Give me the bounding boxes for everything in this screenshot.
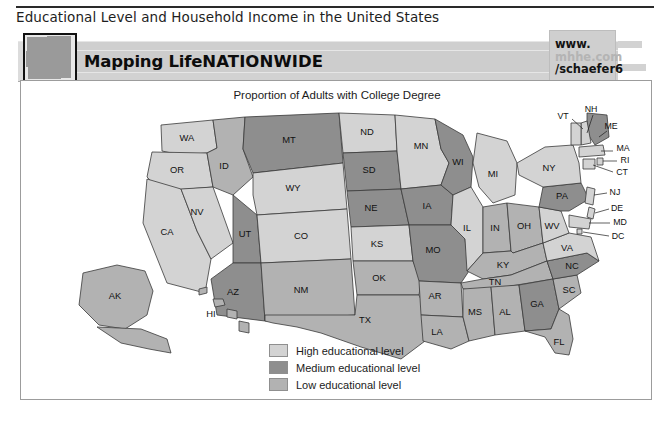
state-label-AZ: AZ	[227, 286, 239, 297]
banner-title-part1: Mapping Life	[84, 52, 202, 71]
state-label-WI: WI	[452, 156, 463, 167]
state-label-OK: OK	[372, 272, 386, 283]
map-content-frame: Proportion of Adults with College Degree	[20, 80, 652, 400]
state-label-MS: MS	[468, 306, 482, 317]
state-shape-HI-c[interactable]	[227, 309, 237, 319]
state-label-CT: CT	[616, 167, 628, 177]
state-label-VA: VA	[561, 242, 574, 253]
legend-item-high: High educational level	[269, 343, 569, 358]
state-label-MT: MT	[282, 134, 296, 145]
state-label-HI: HI	[206, 308, 215, 319]
legend-label-medium: Medium educational level	[296, 362, 420, 374]
state-label-MD: MD	[613, 217, 627, 227]
leader-line-NJ	[594, 193, 607, 195]
state-label-NC: NC	[565, 260, 579, 271]
state-label-RI: RI	[621, 155, 630, 165]
state-shape-VT[interactable]	[571, 123, 581, 145]
badge-band-left	[618, 41, 642, 48]
state-label-WA: WA	[180, 132, 196, 143]
state-label-IA: IA	[423, 200, 433, 211]
state-label-NM: NM	[294, 284, 309, 295]
state-label-NY: NY	[542, 162, 556, 173]
state-label-OH: OH	[517, 220, 531, 231]
state-shape-NE[interactable]	[347, 189, 409, 227]
state-label-MO: MO	[425, 244, 440, 255]
map-svg: WA OR CA NV ID MT WY UT CO AZ NM ND SD N…	[21, 103, 653, 363]
state-shape-OK[interactable]	[353, 261, 421, 295]
state-label-ND: ND	[360, 126, 374, 137]
state-label-TN: TN	[489, 276, 502, 287]
state-label-GA: GA	[530, 298, 544, 309]
state-label-DE: DE	[611, 203, 623, 213]
legend-item-low: Low educational level	[269, 377, 569, 392]
thumb-shape-f	[28, 67, 46, 79]
state-label-MN: MN	[414, 140, 429, 151]
banner-title-part2: NATIONWIDE	[202, 52, 323, 71]
state-label-DC: DC	[612, 231, 625, 241]
state-label-MI: MI	[488, 168, 498, 179]
state-label-NE: NE	[364, 202, 377, 213]
legend-swatch-low	[269, 378, 288, 391]
state-shape-NJ[interactable]	[585, 187, 595, 205]
state-label-IL: IL	[463, 222, 471, 233]
web-url-badge[interactable]: www. mhhe.com /schaefer6	[549, 30, 616, 82]
state-label-AL: AL	[499, 306, 510, 317]
state-label-NH: NH	[585, 104, 598, 114]
thumb-shape-c	[26, 51, 42, 67]
top-divider-rule	[16, 6, 654, 8]
state-shape-AK-tail[interactable]	[97, 327, 171, 353]
state-label-KS: KS	[371, 238, 384, 249]
state-label-CA: CA	[160, 226, 174, 237]
state-label-IN: IN	[490, 222, 499, 233]
legend-item-medium: Medium educational level	[269, 360, 569, 375]
state-label-TX: TX	[359, 314, 372, 325]
state-shape-CT[interactable]	[583, 159, 595, 169]
us-choropleth-map: WA OR CA NV ID MT WY UT CO AZ NM ND SD N…	[21, 103, 653, 363]
state-label-SD: SD	[362, 164, 375, 175]
state-shape-HI-d[interactable]	[239, 321, 249, 333]
state-label-AK: AK	[109, 290, 122, 301]
state-label-SC: SC	[562, 284, 575, 295]
state-label-KY: KY	[497, 259, 510, 270]
state-label-VT: VT	[557, 111, 569, 121]
state-label-ME: ME	[604, 121, 617, 131]
map-legend: High educational level Medium educationa…	[269, 343, 569, 394]
map-title: Proportion of Adults with College Degree	[21, 89, 653, 101]
state-shape-RI[interactable]	[597, 158, 603, 165]
state-shape-DE[interactable]	[587, 207, 595, 219]
banner-title: Mapping Life NATIONWIDE	[84, 51, 323, 72]
state-label-NV: NV	[190, 206, 204, 217]
state-shape-DC[interactable]	[577, 229, 582, 234]
state-label-OR: OR	[170, 164, 184, 175]
state-label-LA: LA	[431, 326, 443, 337]
legend-swatch-medium	[269, 361, 288, 374]
state-label-UT: UT	[239, 228, 252, 239]
leader-line-DE	[595, 209, 609, 213]
web-url-line3: /schaefer6	[555, 63, 615, 76]
state-label-AR: AR	[428, 290, 441, 301]
state-label-NJ: NJ	[610, 187, 621, 197]
state-label-ID: ID	[219, 160, 229, 171]
web-url-line1: www.	[555, 38, 615, 51]
leader-line-DC	[583, 232, 609, 236]
thumb-shape-b	[47, 36, 71, 49]
state-label-PA: PA	[556, 190, 569, 201]
legend-swatch-high	[269, 344, 288, 357]
state-label-CO: CO	[294, 230, 308, 241]
legend-label-high: High educational level	[296, 345, 404, 357]
state-label-WV: WV	[544, 220, 560, 231]
thumb-shape-h	[59, 65, 71, 78]
page-caption: Educational Level and Household Income i…	[16, 9, 636, 25]
thumb-shape-e	[57, 49, 71, 65]
us-map-thumbnail-icon	[23, 33, 77, 85]
leader-line-CT	[593, 165, 613, 172]
state-label-WY: WY	[285, 182, 301, 193]
legend-label-low: Low educational level	[296, 379, 401, 391]
state-label-MA: MA	[616, 143, 629, 153]
